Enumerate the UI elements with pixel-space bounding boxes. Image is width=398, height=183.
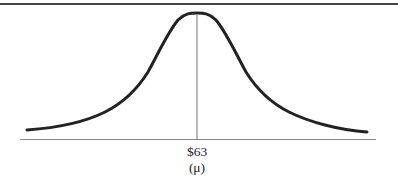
mean-value-label: $63	[187, 144, 208, 159]
normal-distribution-chart: $63 (μ)	[0, 0, 398, 183]
mean-symbol-label: (μ)	[189, 160, 205, 175]
